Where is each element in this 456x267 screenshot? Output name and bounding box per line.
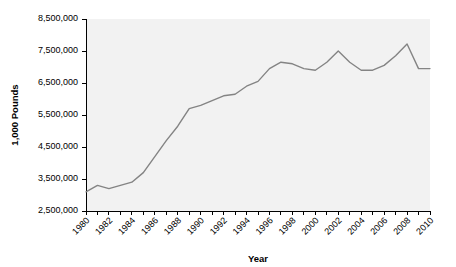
line-chart: 2,500,0003,500,0004,500,0005,500,0006,50… bbox=[0, 0, 456, 267]
y-axis-tick-label: 2,500,000 bbox=[38, 205, 78, 215]
x-axis-tick-label: 2006 bbox=[368, 215, 389, 236]
x-axis-tick-label: 2010 bbox=[414, 215, 435, 236]
y-axis-ticks bbox=[82, 19, 86, 211]
x-axis-tick-label: 2002 bbox=[322, 215, 343, 236]
x-axis-tick-label: 1994 bbox=[231, 215, 252, 236]
x-axis-tick-label: 2008 bbox=[391, 215, 412, 236]
plot-area-background bbox=[86, 19, 430, 211]
x-axis-tick-label: 1998 bbox=[277, 215, 298, 236]
y-axis-title: 1,000 Pounds bbox=[9, 84, 20, 145]
x-axis-tick-label: 2004 bbox=[345, 215, 366, 236]
x-axis-tick-labels: 1980198219841986198819901992199419961998… bbox=[70, 215, 435, 236]
y-axis-tick-label: 3,500,000 bbox=[38, 173, 78, 183]
x-axis-tick-label: 1990 bbox=[185, 215, 206, 236]
y-axis-tick-label: 5,500,000 bbox=[38, 109, 78, 119]
y-axis-tick-label: 4,500,000 bbox=[38, 141, 78, 151]
x-axis-tick-label: 1980 bbox=[70, 215, 91, 236]
chart-canvas: 2,500,0003,500,0004,500,0005,500,0006,50… bbox=[0, 0, 456, 267]
x-axis-ticks bbox=[86, 211, 430, 215]
x-axis-tick-label: 1988 bbox=[162, 215, 183, 236]
x-axis-tick-label: 1986 bbox=[139, 215, 160, 236]
x-axis-tick-label: 1984 bbox=[116, 215, 137, 236]
x-axis-tick-label: 1996 bbox=[254, 215, 275, 236]
y-axis-tick-label: 6,500,000 bbox=[38, 77, 78, 87]
x-axis-title: Year bbox=[248, 253, 268, 264]
y-axis-tick-label: 7,500,000 bbox=[38, 45, 78, 55]
y-axis-tick-label: 8,500,000 bbox=[38, 13, 78, 23]
x-axis-tick-label: 1982 bbox=[93, 215, 114, 236]
x-axis-tick-label: 2000 bbox=[300, 215, 321, 236]
y-axis-tick-labels: 2,500,0003,500,0004,500,0005,500,0006,50… bbox=[38, 13, 78, 215]
x-axis-tick-label: 1992 bbox=[208, 215, 229, 236]
